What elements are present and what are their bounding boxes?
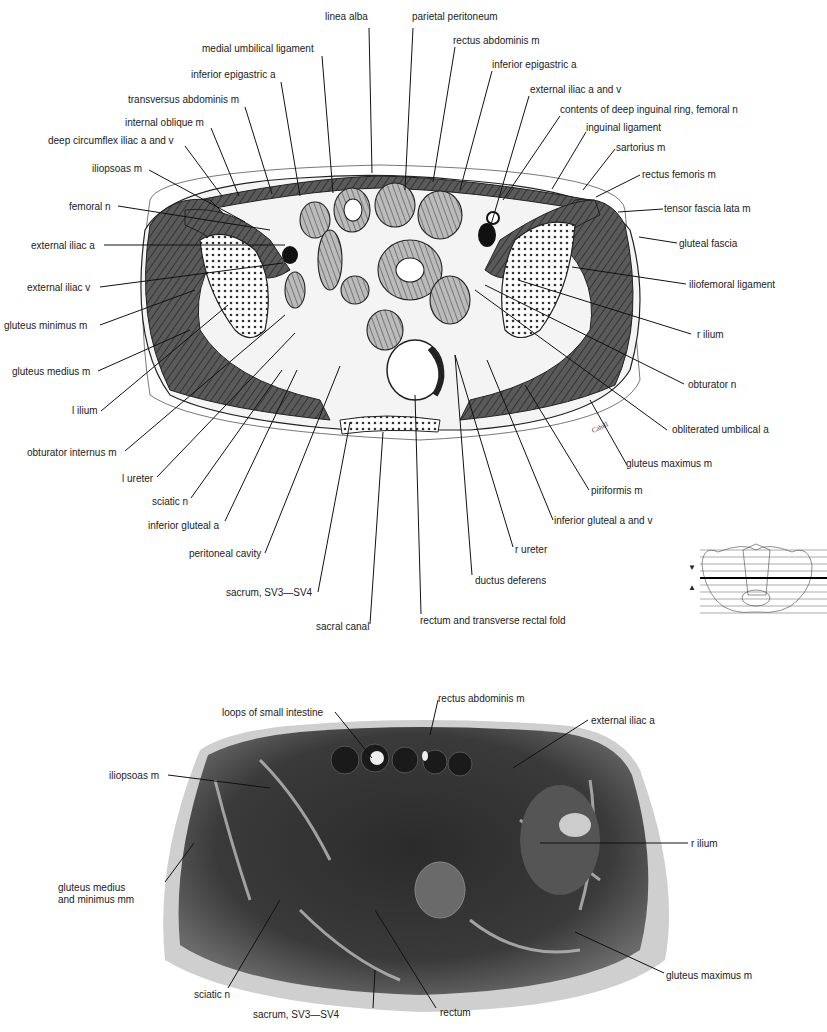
- label-gluteus-medius-minimus: gluteus medius and minimus mm: [58, 882, 134, 906]
- label-l-ilium: l ilium: [72, 405, 98, 417]
- label-inferior-gluteal-a-and-v: inferior gluteal a and v: [554, 515, 652, 527]
- label-sacral-canal: sacral canal: [316, 621, 369, 633]
- label-iliopsoas: iliopsoas m: [92, 163, 142, 175]
- label-obliterated-umbilical-a: obliterated umbilical a: [672, 424, 769, 436]
- label-l-ureter: l ureter: [122, 473, 153, 485]
- label-external-iliac-v: external iliac v: [27, 282, 90, 294]
- label-gluteus-medius: gluteus medius m: [12, 366, 90, 378]
- label-rectus-abdominis-photo: rectus abdominis m: [438, 693, 525, 705]
- label-inferior-epigastric-a-left: inferior epigastric a: [191, 69, 275, 81]
- label-sciatic-n: sciatic n: [152, 496, 188, 508]
- label-transversus-abdominis: transversus abdominis m: [128, 94, 239, 106]
- label-ductus-deferens: ductus deferens: [475, 575, 546, 587]
- label-external-iliac-a: external iliac a: [31, 240, 95, 252]
- label-rectus-abdominis: rectus abdominis m: [453, 35, 540, 47]
- locator-thumbnail: ▼ ▲: [688, 540, 827, 620]
- label-rectus-femoris: rectus femoris m: [642, 169, 716, 181]
- arrow-up-icon: ▲: [688, 582, 696, 594]
- label-parietal-peritoneum: parietal peritoneum: [412, 11, 498, 23]
- label-internal-oblique: internal oblique m: [125, 117, 204, 129]
- label-piriformis: piriformis m: [591, 485, 643, 497]
- label-gluteus-maximus: gluteus maximus m: [626, 458, 712, 470]
- label-rectum-transverse-fold: rectum and transverse rectal fold: [420, 615, 566, 627]
- label-external-iliac-a-photo: external iliac a: [591, 715, 655, 727]
- arrow-down-icon: ▼: [688, 562, 696, 574]
- section-photograph: loops of small intestine rectus abdomini…: [0, 660, 827, 1032]
- label-inferior-gluteal-a: inferior gluteal a: [148, 520, 219, 532]
- label-inferior-epigastric-a-right: inferior epigastric a: [492, 59, 576, 71]
- label-obturator-n: obturator n: [688, 379, 736, 391]
- label-r-ilium-photo: r ilium: [691, 838, 718, 850]
- label-gluteus-minimus: gluteus minimus m: [4, 320, 87, 332]
- label-tensor-fascia-lata: tensor fascia lata m: [664, 203, 751, 215]
- label-peritoneal-cavity: peritoneal cavity: [189, 548, 261, 560]
- label-sartorius: sartorius m: [616, 142, 665, 154]
- label-sacrum-photo: sacrum, SV3—SV4: [253, 1009, 339, 1021]
- label-deep-circumflex-iliac: deep circumflex iliac a and v: [48, 135, 174, 147]
- label-contents-deep-inguinal-ring: contents of deep inguinal ring, femoral …: [560, 104, 738, 116]
- label-r-ureter: r ureter: [515, 544, 547, 556]
- label-femoral-n: femoral n: [69, 201, 111, 213]
- label-rectum-photo: rectum: [440, 1007, 471, 1019]
- label-iliopsoas-photo: iliopsoas m: [109, 770, 159, 782]
- svg-text:Cahill: Cahill: [590, 420, 609, 435]
- label-medial-umbilical-ligament: medial umbilical ligament: [202, 43, 314, 55]
- label-r-ilium: r ilium: [697, 329, 724, 341]
- label-gluteal-fascia: gluteal fascia: [679, 238, 737, 250]
- label-sciatic-n-photo: sciatic n: [194, 989, 230, 1001]
- label-loops-small-intestine: loops of small intestine: [222, 707, 323, 719]
- label-linea-alba: linea alba: [325, 11, 368, 23]
- label-external-iliac-a-and-v: external iliac a and v: [530, 84, 621, 96]
- label-obturator-internus: obturator internus m: [27, 447, 117, 459]
- label-inguinal-ligament: inguinal ligament: [586, 122, 661, 134]
- label-gluteus-maximus-photo: gluteus maximus m: [666, 970, 752, 982]
- label-sacrum-top: sacrum, SV3—SV4: [226, 587, 312, 599]
- pelvis-outline-icon: [688, 540, 827, 620]
- label-iliofemoral-ligament: iliofemoral ligament: [689, 279, 775, 291]
